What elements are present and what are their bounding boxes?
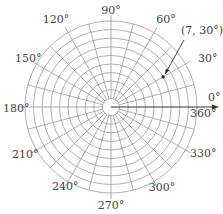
angle-label-60: 60° — [156, 13, 176, 26]
angle-label-90: 90° — [101, 4, 121, 17]
ray-300deg — [115, 114, 157, 186]
ray-210deg — [31, 111, 103, 153]
ray-60deg — [115, 27, 157, 99]
ray-120deg — [65, 27, 107, 99]
polar-diagram: 0°30°60°90°120°150°180°210°240°270°300°3… — [0, 0, 223, 214]
angle-label-270: 270° — [98, 199, 125, 212]
angle-label-240: 240° — [52, 180, 79, 193]
polar-grid-canvas: 0°30°60°90°120°150°180°210°240°270°300°3… — [0, 0, 223, 214]
angle-label-210: 210° — [12, 148, 39, 161]
ray-30deg — [118, 61, 190, 103]
angle-label-30: 30° — [198, 52, 218, 65]
angle-label-330: 330° — [190, 147, 217, 160]
point-label: (7, 30°) — [181, 24, 223, 37]
angle-label-300: 300° — [149, 181, 176, 194]
ray-150deg — [31, 61, 103, 103]
angle-label-120: 120° — [43, 13, 70, 26]
angle-label-180: 180° — [3, 102, 30, 115]
angle-label-150: 150° — [15, 52, 42, 65]
plotted-point — [162, 75, 165, 78]
angle-label-360: 360° — [190, 107, 217, 120]
ray-240deg — [65, 114, 107, 186]
angle-label-0: 0° — [208, 91, 221, 104]
ray-330deg — [118, 111, 190, 153]
